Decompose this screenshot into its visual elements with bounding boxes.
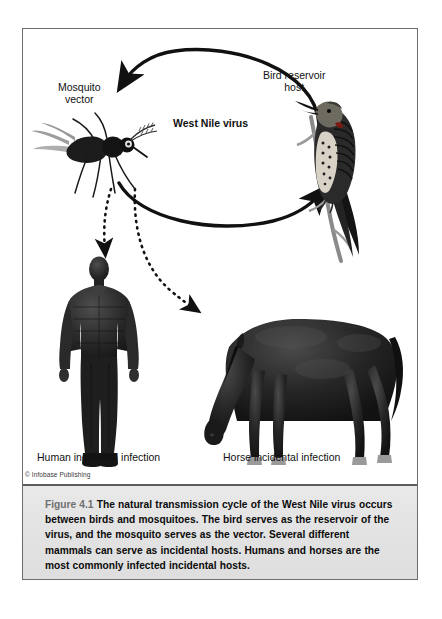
- label-mosquito-vector: Mosquitovector: [58, 81, 101, 105]
- transmission-cycle-diagram: Mosquitovector Bird reservoirhost West N…: [23, 29, 417, 481]
- bird-label-line1: Bird reservoir: [263, 69, 325, 81]
- human-silhouette: [59, 257, 139, 468]
- label-bird-reservoir-host: Bird reservoirhost: [263, 69, 325, 93]
- arrow-mosquito-to-bird: [119, 183, 321, 226]
- label-horse-incidental-infection: Horse incidental infection: [223, 451, 340, 463]
- figure-frame: Mosquitovector Bird reservoirhost West N…: [22, 28, 418, 580]
- mosquito-label-line2: vector: [65, 93, 94, 105]
- bird-label-line2: host: [284, 81, 304, 93]
- bird-illustration: [295, 101, 359, 261]
- label-west-nile-virus: West Nile virus: [173, 117, 248, 129]
- arrow-mosquito-to-human: [104, 189, 111, 251]
- figure-caption: Figure 4.1 The natural transmission cycl…: [45, 497, 397, 573]
- figure-number: Figure 4.1: [45, 499, 94, 510]
- figure-page: Mosquitovector Bird reservoirhost West N…: [0, 0, 442, 619]
- horse-silhouette: [204, 319, 403, 465]
- figure-caption-box: Figure 4.1 The natural transmission cycl…: [23, 484, 417, 579]
- mosquito-illustration: [31, 113, 157, 197]
- copyright-notice: © Infobase Publishing: [25, 471, 90, 478]
- mosquito-label-line1: Mosquito: [58, 81, 101, 93]
- label-human-incidental-infection: Human incidental infection: [37, 451, 160, 463]
- figure-caption-text: The natural transmission cycle of the We…: [45, 499, 392, 571]
